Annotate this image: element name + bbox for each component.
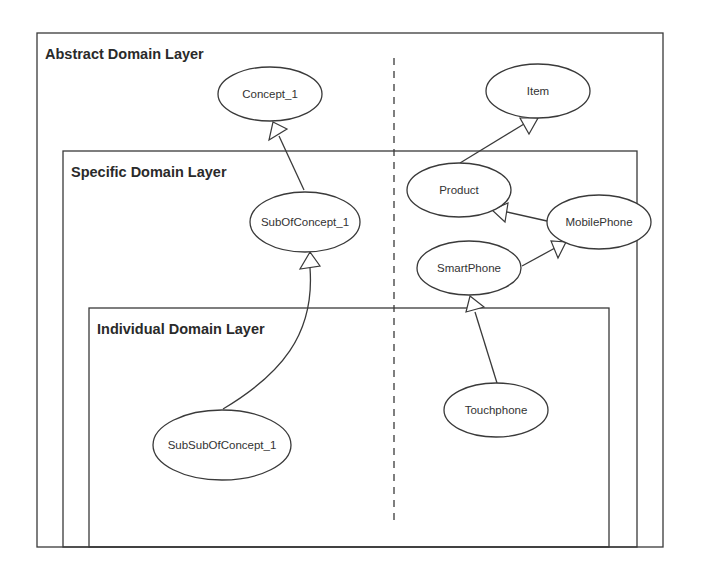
node-product[interactable]: Product <box>407 163 511 217</box>
node-label: SmartPhone <box>437 262 501 274</box>
abstract-domain-layer-title: Abstract Domain Layer <box>45 46 204 62</box>
generalization-arrow-icon <box>269 122 287 140</box>
specific-domain-layer-title: Specific Domain Layer <box>71 164 227 180</box>
generalization-arrow-icon <box>300 252 320 269</box>
domain-layer-diagram: Abstract Domain Layer Specific Domain La… <box>0 0 719 576</box>
generalization-arrow-icon <box>466 296 484 312</box>
generalization-arrow-icon <box>520 118 538 134</box>
node-label: SubSubOfConcept_1 <box>168 439 277 451</box>
edge-smartphone-to-mobilephone <box>522 248 555 266</box>
edge-mobilephone-to-product <box>507 212 547 221</box>
node-label: Concept_1 <box>242 88 298 100</box>
node-label: SubOfConcept_1 <box>261 216 349 228</box>
edge-subsubofconcept1-to-subofconcept1 <box>223 268 310 409</box>
edge-subofconcept1-to-concept1 <box>279 136 304 190</box>
node-touchphone[interactable]: Touchphone <box>444 383 548 437</box>
edge-touchphone-to-smartphone <box>475 312 497 383</box>
node-subofconcept-1[interactable]: SubOfConcept_1 <box>250 192 360 252</box>
edge-product-to-item <box>460 124 524 163</box>
node-label: Product <box>439 184 479 196</box>
individual-domain-layer-title: Individual Domain Layer <box>97 321 265 337</box>
node-item[interactable]: Item <box>486 64 590 118</box>
node-label: Item <box>527 85 549 97</box>
node-subsubofconcept-1[interactable]: SubSubOfConcept_1 <box>153 410 291 480</box>
node-label: MobilePhone <box>565 216 632 228</box>
node-smartphone[interactable]: SmartPhone <box>417 241 521 295</box>
node-concept-1[interactable]: Concept_1 <box>218 67 322 121</box>
node-label: Touchphone <box>465 404 528 416</box>
node-mobilephone[interactable]: MobilePhone <box>547 195 651 249</box>
